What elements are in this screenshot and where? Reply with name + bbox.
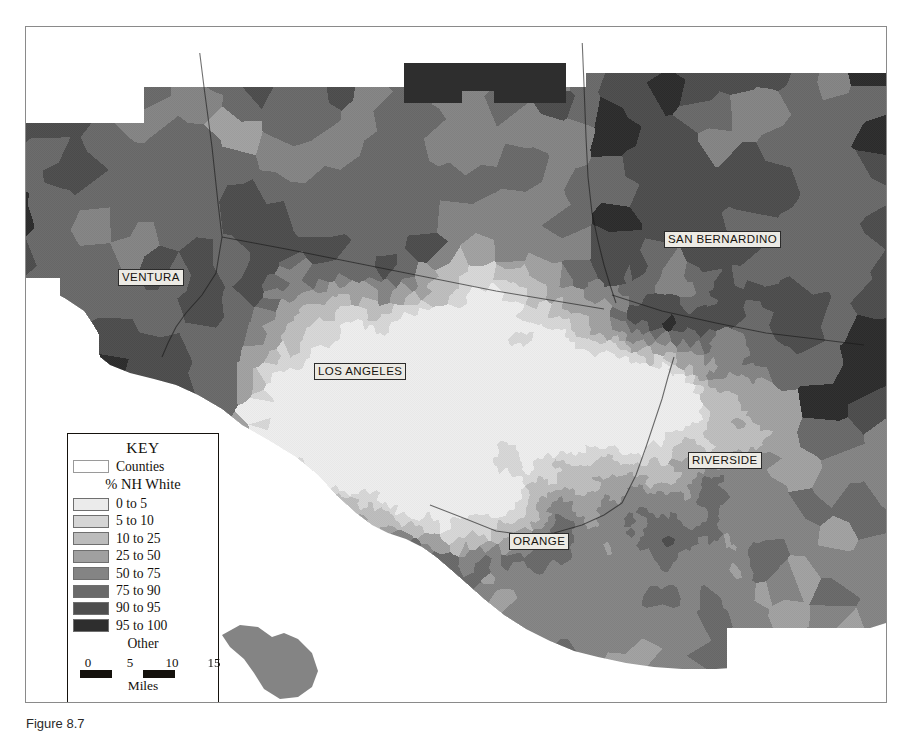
legend-class-swatch xyxy=(73,619,109,632)
legend-class-label: 90 to 95 xyxy=(116,600,161,616)
legend-class-label: 75 to 90 xyxy=(116,583,161,599)
legend-class-row: 5 to 10 xyxy=(68,513,218,530)
scale-bar: 051015 Miles xyxy=(68,655,218,694)
legend-class-swatch xyxy=(73,515,109,528)
legend-class-row: 50 to 75 xyxy=(68,565,218,582)
scale-bar-graphic xyxy=(80,670,206,678)
counties-label: Counties xyxy=(116,459,164,475)
scale-segment-4 xyxy=(175,670,207,678)
scale-tick-label: 5 xyxy=(127,655,134,671)
scale-segment-2 xyxy=(112,670,144,678)
legend-class-label: 0 to 5 xyxy=(116,496,147,512)
legend-class-swatch xyxy=(73,567,109,580)
legend-class-swatch xyxy=(73,585,109,598)
scale-segment-3 xyxy=(143,670,175,678)
legend-class-row: 25 to 50 xyxy=(68,548,218,565)
map-legend: KEY Counties % NH White 0 to 55 to 1010 … xyxy=(67,433,219,703)
legend-row-counties: Counties xyxy=(68,458,218,475)
legend-class-label: 25 to 50 xyxy=(116,548,161,564)
counties-swatch xyxy=(73,460,109,473)
county-label-san-bernardino: SAN BERNARDINO xyxy=(664,231,781,248)
scale-bar-units: Miles xyxy=(78,678,208,694)
legend-class-row: 0 to 5 xyxy=(68,495,218,512)
legend-class-swatch xyxy=(73,602,109,615)
figure-page: VENTURALOS ANGELESSAN BERNARDINORIVERSID… xyxy=(0,0,912,735)
legend-class-row: 95 to 100 xyxy=(68,617,218,634)
scale-tick-label: 15 xyxy=(208,655,221,671)
legend-class-swatch xyxy=(73,532,109,545)
county-label-los-angeles: LOS ANGELES xyxy=(314,363,406,380)
figure-caption: Figure 8.7 xyxy=(26,716,85,735)
legend-class-label: 50 to 75 xyxy=(116,566,161,582)
legend-subtitle: % NH White xyxy=(68,476,218,493)
legend-class-row: 90 to 95 xyxy=(68,600,218,617)
scale-tick-label: 10 xyxy=(166,655,179,671)
scale-segment-1 xyxy=(80,670,112,678)
scale-tick-label: 0 xyxy=(85,655,92,671)
county-label-ventura: VENTURA xyxy=(118,269,184,286)
map-frame: VENTURALOS ANGELESSAN BERNARDINORIVERSID… xyxy=(25,26,887,703)
legend-class-row: 75 to 90 xyxy=(68,582,218,599)
legend-class-swatch xyxy=(73,498,109,511)
legend-class-row: 10 to 25 xyxy=(68,530,218,547)
legend-class-list: 0 to 55 to 1010 to 2525 to 5050 to 7575 … xyxy=(68,495,218,634)
legend-class-label: 5 to 10 xyxy=(116,513,154,529)
county-label-riverside: RIVERSIDE xyxy=(688,452,762,469)
legend-other-label: Other xyxy=(68,636,218,652)
scale-bar-ticks: 051015 xyxy=(78,655,208,670)
legend-class-label: 95 to 100 xyxy=(116,618,167,634)
county-label-orange: ORANGE xyxy=(509,533,569,550)
legend-title: KEY xyxy=(68,439,218,457)
legend-class-label: 10 to 25 xyxy=(116,531,161,547)
legend-class-swatch xyxy=(73,550,109,563)
